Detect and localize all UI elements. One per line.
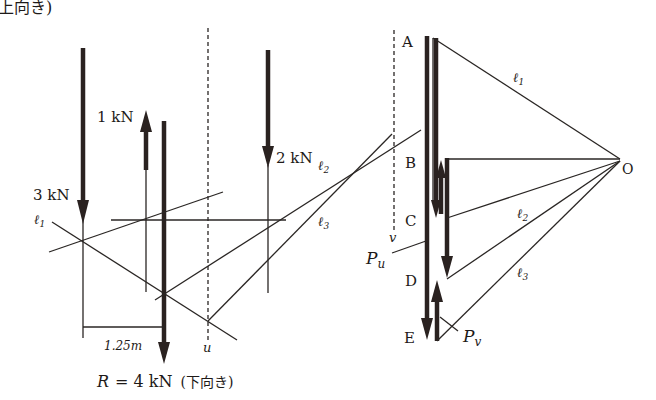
arrowhead-down-icon [441, 256, 453, 278]
label-l2: ℓ2 [318, 158, 329, 175]
label-l3: ℓ3 [318, 214, 329, 231]
label-l1: ℓ1 [34, 212, 45, 229]
pole-o: O [622, 161, 633, 177]
reaction-label-pv: Pv [462, 326, 481, 349]
reaction-label-pu: Pu [365, 248, 385, 271]
pu-leader-line [392, 241, 426, 253]
ray-l2 [447, 161, 620, 279]
point-c: C [405, 212, 416, 230]
force-label-3kn: 3 kN [33, 186, 70, 204]
point-d: D [405, 272, 417, 290]
ray-label-l2: ℓ2 [517, 206, 528, 223]
ray-label-l3: ℓ3 [517, 265, 528, 282]
force-polygon: v A B C D E O ℓ1 ℓ2 [365, 30, 633, 349]
arrowhead-down-icon [262, 146, 274, 168]
ray-label-l1: ℓ1 [513, 70, 524, 87]
funicular-ray-a [49, 192, 223, 252]
top-caption-fragment: 上向き) [0, 0, 52, 17]
force-diagram-canvas: 上向き) u 3 kN 1 kN 2 kN ℓ1 ℓ2 [0, 0, 656, 400]
ray-l2a [447, 161, 620, 218]
force-label-2kn: 2 kN [276, 149, 313, 167]
space-diagram: u 3 kN 1 kN 2 kN ℓ1 ℓ2 ℓ3 1. [33, 28, 421, 391]
dimension-label: 1.25m [104, 339, 142, 353]
label-u: u [203, 340, 211, 355]
ray-l3 [437, 161, 620, 341]
force-label-1kn: 1 kN [97, 108, 134, 126]
ray-l1 [433, 38, 620, 159]
arrowhead-down-icon [421, 318, 433, 340]
arrowhead-up-icon [431, 280, 443, 302]
arrowhead-up-icon [140, 110, 152, 132]
point-a: A [401, 33, 413, 51]
label-v: v [389, 230, 397, 245]
resultant-label: R= 4 kN(下向き) [96, 372, 233, 391]
funicular-line-l1 [52, 222, 237, 340]
arrowhead-down-icon [77, 200, 89, 224]
point-e: E [404, 329, 415, 347]
arrowhead-down-icon [158, 342, 170, 364]
point-b: B [405, 154, 416, 172]
